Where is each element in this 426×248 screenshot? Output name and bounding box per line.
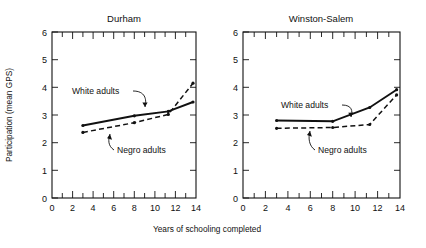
two-panel-line-chart: Participation (mean GPS) Years of school… [0,0,426,248]
figure-container: Participation (mean GPS) Years of school… [0,0,426,248]
x-tick-label: 14 [395,203,405,213]
y-tick-label: 4 [233,83,238,93]
y-tick-label: 0 [42,194,47,204]
figure-background [0,0,426,248]
y-tick-label: 1 [233,166,238,176]
y-tick-label: 6 [233,28,238,38]
y-tick-label: 3 [42,111,47,121]
y-tick-label: 1 [42,166,47,176]
x-tick-label: 8 [132,203,137,213]
x-tick-label: 12 [373,203,383,213]
y-tick-label: 2 [42,138,47,148]
y-tick-label: 5 [233,55,238,65]
x-tick-label: 10 [350,203,360,213]
y-tick-label: 2 [233,138,238,148]
x-axis-title: Years of schooling completed [153,224,261,234]
x-tick-label: 12 [170,203,180,213]
winston-salem-negro-adults-label: Negro adults [318,145,367,155]
panel-title-durham: Durham [107,13,141,24]
x-tick-label: 4 [91,203,96,213]
durham-white-adults-label: White adults [72,86,119,96]
x-tick-label: 0 [240,203,245,213]
x-tick-label: 2 [70,203,75,213]
x-tick-label: 2 [263,203,268,213]
panel-title-winston-salem: Winston-Salem [289,13,353,24]
durham-negro-adults-label: Negro adults [117,145,166,155]
y-tick-label: 0 [233,194,238,204]
winston-salem-white-adults-label: White adults [281,100,328,110]
x-tick-label: 14 [191,203,201,213]
y-tick-label: 6 [42,28,47,38]
x-tick-label: 4 [285,203,290,213]
y-tick-label: 3 [233,111,238,121]
y-tick-label: 4 [42,83,47,93]
y-tick-label: 5 [42,55,47,65]
x-tick-label: 8 [330,203,335,213]
x-tick-label: 6 [308,203,313,213]
x-tick-label: 6 [111,203,116,213]
y-axis-title: Participation (mean GPS) [4,68,14,162]
x-tick-label: 10 [150,203,160,213]
x-tick-label: 0 [49,203,54,213]
